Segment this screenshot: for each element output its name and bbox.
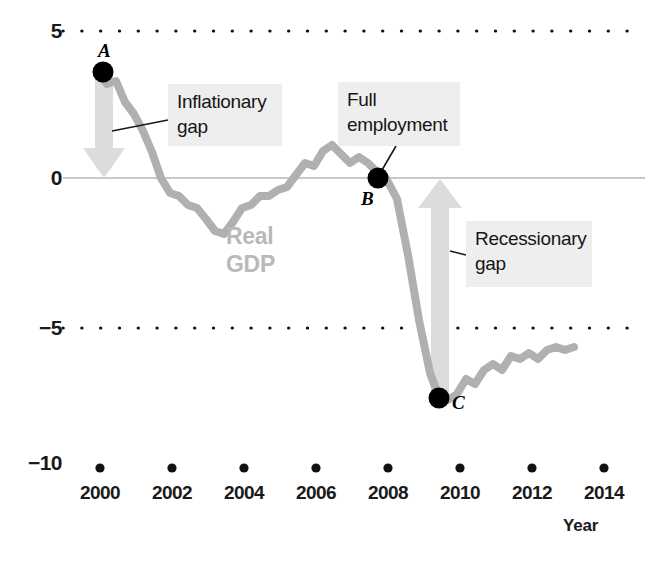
annotation-recessionary-gap: Recessionary gap	[466, 221, 592, 287]
x-axis-tick-label-2004: 2004	[209, 483, 279, 502]
annotation-recessionary-gap-line2: gap	[475, 252, 583, 277]
data-point-label-a: A	[98, 40, 111, 62]
x-tick-dot	[239, 463, 248, 472]
y-axis-tick-label-0: 0	[6, 167, 62, 188]
series-label-line1: Real	[226, 222, 316, 250]
x-tick-dot	[599, 463, 608, 472]
x-tick-dot	[167, 463, 176, 472]
series-label-real-gdp: Real GDP	[226, 222, 316, 278]
x-axis-tick-label-2014: 2014	[569, 483, 639, 502]
data-point-label-c: C	[452, 392, 465, 414]
y-axis-tick-label-minus5: −5	[0, 317, 62, 338]
leader-line-full-employment	[382, 146, 396, 170]
x-axis-tick-label-2010: 2010	[425, 483, 495, 502]
annotation-inflationary-gap: Inflationary gap	[168, 84, 282, 146]
annotation-inflationary-gap-line1: Inflationary	[177, 90, 273, 115]
x-axis-tick-label-2012: 2012	[497, 483, 567, 502]
x-tick-dot	[527, 463, 536, 472]
data-point-b[interactable]	[368, 168, 389, 189]
data-point-a[interactable]	[93, 62, 114, 83]
data-point-c[interactable]	[429, 388, 450, 409]
x-axis-tick-label-2000: 2000	[65, 483, 135, 502]
leader-line-recessionary	[450, 251, 466, 255]
x-tick-dot	[311, 463, 320, 472]
annotation-recessionary-gap-line1: Recessionary	[475, 227, 583, 252]
x-tick-dot	[95, 463, 104, 472]
x-tick-dot	[383, 463, 392, 472]
x-axis-tick-label-2008: 2008	[353, 483, 423, 502]
x-axis-tick-label-2006: 2006	[281, 483, 351, 502]
x-axis-title: Year	[563, 516, 598, 536]
annotation-full-employment-line2: employment	[347, 113, 451, 138]
x-axis-tick-label-2002: 2002	[137, 483, 207, 502]
x-axis-tick-dots	[95, 463, 608, 472]
y-axis-tick-label-5: 5	[6, 20, 62, 41]
chart-container: 5 0 −5 −10 2000 2002 2004 2006 2008 2010…	[0, 0, 649, 566]
series-label-line2: GDP	[226, 250, 316, 278]
annotation-full-employment-line1: Full	[347, 88, 451, 113]
annotation-full-employment: Full employment	[338, 82, 460, 146]
data-point-label-b: B	[361, 188, 374, 210]
x-tick-dot	[455, 463, 464, 472]
annotation-inflationary-gap-line2: gap	[177, 115, 273, 140]
y-axis-tick-label-minus10: −10	[0, 452, 62, 473]
